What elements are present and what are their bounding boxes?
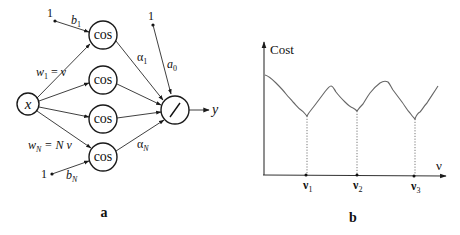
hidden-node-2-label: cos [94,72,113,87]
panel-b-chart: Cost ν ν1 ν2 ν3 b [263,42,446,225]
bias-top-label: b1 [71,13,81,29]
a0-one: 1 [148,9,154,23]
alpha-top-label: α1 [137,50,147,66]
y-axis-label: Cost [270,42,294,57]
edge-x-to-cos2 [39,83,89,101]
cost-curve [265,75,438,119]
output-label-y: y [210,102,219,117]
hidden-node-4-label: cos [94,149,113,164]
edge-cos2-to-out [117,84,161,105]
tick-label-2: ν2 [352,178,362,194]
input-node-label: x [24,96,32,112]
tick-label-1: ν1 [302,178,312,194]
tick-dot-1 [305,174,308,177]
hidden-node-1-label: cos [94,27,113,42]
tick-dot-3 [413,175,416,178]
bias-bottom-label: bN [66,168,78,184]
edge-cos3-to-out [117,112,161,118]
panel-a-network: x cos cos cos cos y 1 b1 1 bN w1 = ν wN … [17,6,219,220]
a0-label: a0 [167,57,177,73]
tick-label-3: ν3 [410,179,420,195]
figure-canvas: x cos cos cos cos y 1 b1 1 bN w1 = ν wN … [0,0,460,235]
panel-b-caption: b [349,210,357,225]
tick-dot-2 [356,174,359,177]
panel-a-caption: a [101,205,108,220]
bias-top-one: 1 [47,6,53,20]
hidden-node-3-label: cos [94,111,113,126]
x-axis-label: ν [436,158,442,173]
weight-top-label: w1 = ν [36,65,67,81]
weight-bottom-label: wN = N ν [28,138,72,154]
bias-bottom-one: 1 [41,167,47,181]
x-axis [263,175,446,176]
alpha-bottom-label: αN [137,137,149,153]
edge-x-to-cos3 [39,107,89,117]
